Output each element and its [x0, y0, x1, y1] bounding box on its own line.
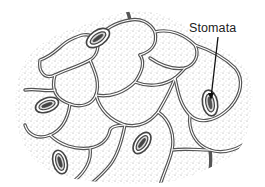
figure-canvas: Stomata: [0, 0, 265, 187]
stomata-label: Stomata: [189, 21, 236, 35]
